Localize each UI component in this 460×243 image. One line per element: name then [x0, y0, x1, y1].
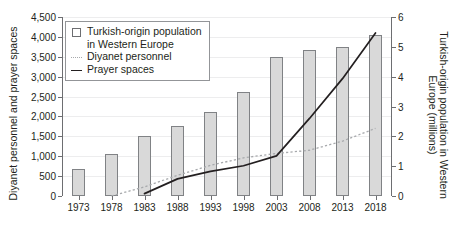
right-axis-tick: [392, 166, 396, 167]
square-marker-icon: [71, 26, 84, 38]
x-axis-tick-label: 1993: [199, 202, 221, 213]
legend-label-prayer-spaces: Prayer spaces: [87, 64, 154, 76]
legend-item-population: Turkish-origin population: [71, 26, 202, 38]
x-axis-tick-label: 2008: [298, 202, 320, 213]
left-y-axis: [62, 17, 63, 196]
x-axis-tick: [376, 196, 377, 200]
x-axis-tick-label: 2003: [265, 202, 287, 213]
left-axis-tick-label: 1,000: [31, 151, 56, 162]
right-axis-tick-label: 4: [398, 71, 404, 82]
x-axis-tick: [178, 196, 179, 200]
left-axis-tick-label: 1,500: [31, 131, 56, 142]
right-axis-tick-label: 1: [398, 161, 404, 172]
solid-line-marker-icon: [71, 64, 84, 76]
right-axis-tick: [392, 196, 396, 197]
diyanet-personnel-line: [112, 128, 376, 196]
right-axis-title: Turkish-origin population in Western Eur…: [427, 30, 449, 200]
x-axis-tick-label: 2013: [331, 202, 353, 213]
dotted-line-marker-icon: [71, 51, 84, 63]
x-axis-tick: [211, 196, 212, 200]
right-axis-tick-label: 6: [398, 12, 404, 23]
left-axis-tick-label: 3,000: [31, 71, 56, 82]
right-axis-tick-label: 3: [398, 101, 404, 112]
legend-item-prayer-spaces: Prayer spaces: [71, 64, 202, 76]
chart-container: Diyanet personnel and prayer spaces Turk…: [0, 0, 460, 243]
right-axis-tick: [392, 136, 396, 137]
left-axis-tick: [58, 97, 62, 98]
x-axis-tick-label: 1983: [133, 202, 155, 213]
left-axis-tick-label: 0: [50, 191, 56, 202]
left-axis-tick: [58, 136, 62, 137]
x-axis-tick: [277, 196, 278, 200]
x-axis-tick-label: 1973: [67, 202, 89, 213]
left-axis-title: Diyanet personnel and prayer spaces: [8, 19, 19, 209]
x-axis-tick-label: 1998: [232, 202, 254, 213]
legend-label-population-line2: in Western Europe: [71, 39, 202, 51]
x-axis-tick: [343, 196, 344, 200]
left-axis-tick-label: 2,500: [31, 91, 56, 102]
left-axis-tick-label: 3,500: [31, 51, 56, 62]
x-axis-tick: [79, 196, 80, 200]
right-axis-tick-label: 5: [398, 41, 404, 52]
x-axis-tick: [310, 196, 311, 200]
right-axis-tick: [392, 47, 396, 48]
left-axis-tick: [58, 77, 62, 78]
left-axis-tick-label: 500: [39, 171, 56, 182]
x-axis-tick-label: 1988: [166, 202, 188, 213]
right-axis-tick-label: 2: [398, 131, 404, 142]
chart-legend: Turkish-origin population in Western Eur…: [65, 21, 210, 81]
x-axis-tick: [244, 196, 245, 200]
left-axis-tick: [58, 17, 62, 18]
left-axis-tick: [58, 37, 62, 38]
left-axis-tick-label: 4,500: [31, 12, 56, 23]
legend-label-diyanet: Diyanet personnel: [87, 51, 172, 63]
legend-item-diyanet: Diyanet personnel: [71, 51, 202, 63]
x-axis-tick: [112, 196, 113, 200]
right-axis-tick: [392, 77, 396, 78]
left-axis-tick: [58, 156, 62, 157]
left-axis-tick: [58, 196, 62, 197]
right-axis-tick: [392, 17, 396, 18]
left-axis-tick-label: 2,000: [31, 111, 56, 122]
x-axis-tick-label: 1978: [100, 202, 122, 213]
x-axis-tick: [145, 196, 146, 200]
left-axis-tick: [58, 176, 62, 177]
left-axis-tick-label: 4,000: [31, 31, 56, 42]
left-axis-tick: [58, 116, 62, 117]
x-axis-tick-label: 2018: [364, 202, 386, 213]
right-axis-tick-label: 0: [398, 191, 404, 202]
legend-label-population: Turkish-origin population: [87, 26, 202, 38]
right-axis-tick: [392, 107, 396, 108]
left-axis-tick: [58, 57, 62, 58]
